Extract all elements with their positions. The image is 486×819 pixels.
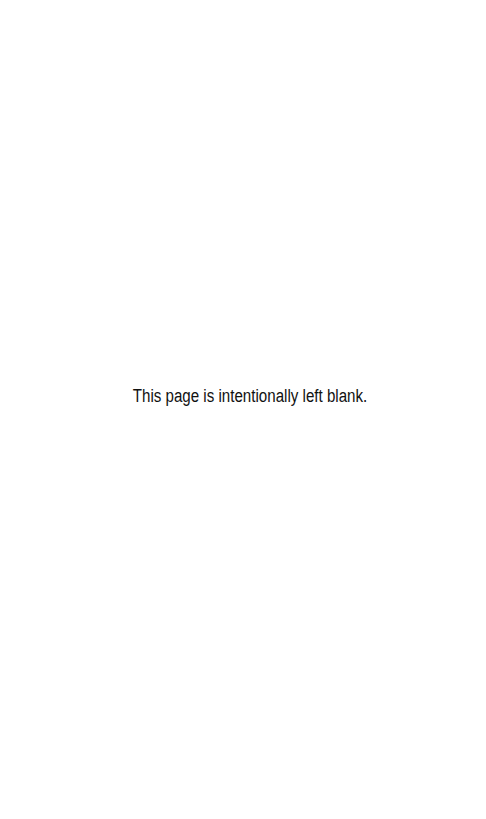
blank-page: This page is intentionally left blank. xyxy=(0,0,486,819)
blank-page-notice: This page is intentionally left blank. xyxy=(40,385,460,407)
